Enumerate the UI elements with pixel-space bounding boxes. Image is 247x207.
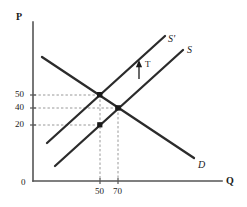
point-supplier-receives [97, 122, 102, 127]
diagram-canvas [0, 0, 247, 207]
demand-curve-label: D [198, 160, 205, 170]
equilibrium-points [97, 92, 121, 127]
point-original-equilibrium [115, 105, 120, 110]
x-tick-label-70: 70 [113, 187, 122, 196]
tax-arrow-label: T [145, 60, 151, 69]
point-after-tax-equilibrium [97, 92, 102, 97]
x-axis-label: Q [226, 176, 234, 186]
x-tick-label-50: 50 [95, 187, 104, 196]
guide-lines [34, 95, 118, 181]
supply-demand-tax-diagram: P Q 0 50 40 20 50 70 S' S D T [0, 0, 247, 207]
origin-label: 0 [21, 178, 26, 187]
supply-curve-label: S [187, 45, 192, 55]
y-tick-label-40: 40 [15, 103, 24, 112]
supply-shifted-curve-label: S' [168, 34, 175, 44]
y-tick-label-50: 50 [15, 90, 24, 99]
y-axis-label: P [16, 12, 22, 22]
y-tick-label-20: 20 [15, 120, 24, 129]
